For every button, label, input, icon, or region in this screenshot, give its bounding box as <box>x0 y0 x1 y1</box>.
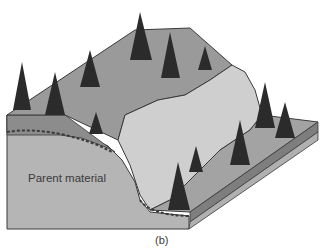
tree-icon <box>13 62 31 110</box>
figure-caption: (b) <box>155 234 168 246</box>
block-diagram-illustration <box>0 0 325 251</box>
soil-landslide-diagram: Parent material (b) <box>0 0 325 251</box>
parent-material-label: Parent material <box>28 172 106 184</box>
